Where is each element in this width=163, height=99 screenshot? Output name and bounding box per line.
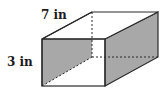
- prism-drawing: [0, 0, 163, 99]
- height-label: 3 in: [7, 56, 33, 68]
- depth-label: 7 in: [41, 9, 67, 21]
- rectangular-prism-diagram: 7 in 3 in: [0, 0, 163, 99]
